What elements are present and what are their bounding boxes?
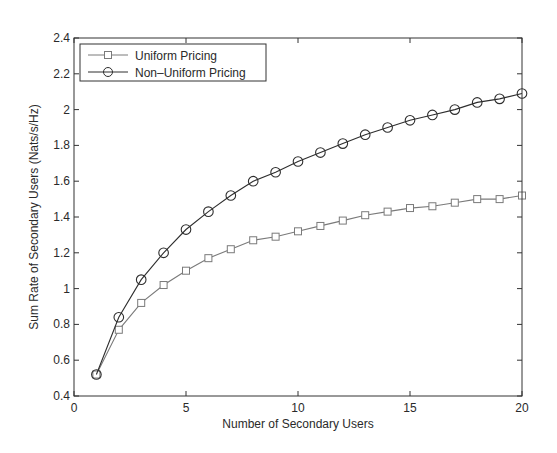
x-axis-label: Number of Secondary Users	[222, 417, 373, 431]
square-marker-icon	[160, 282, 167, 289]
square-marker-icon	[429, 203, 436, 210]
y-tick-label: 1.4	[53, 210, 70, 224]
square-marker-icon	[227, 246, 234, 253]
square-marker-icon	[105, 52, 112, 59]
square-marker-icon	[93, 371, 100, 378]
y-tick-label: 0.6	[53, 353, 70, 367]
y-tick-label: 2	[63, 103, 70, 117]
square-marker-icon	[362, 212, 369, 219]
legend: Uniform Pricing Non–Uniform Pricing	[80, 44, 266, 81]
square-marker-icon	[451, 199, 458, 206]
square-marker-icon	[384, 208, 391, 215]
x-tick-label: 0	[71, 401, 78, 415]
legend-label-uniform: Uniform Pricing	[135, 49, 217, 63]
square-marker-icon	[339, 217, 346, 224]
square-marker-icon	[250, 237, 257, 244]
x-tick-label: 10	[291, 401, 305, 415]
square-marker-icon	[295, 228, 302, 235]
y-tick-label: 1.6	[53, 174, 70, 188]
y-tick-label: 1	[63, 282, 70, 296]
y-tick-label: 2.2	[53, 67, 70, 81]
y-tick-label: 1.2	[53, 246, 70, 260]
square-marker-icon	[115, 326, 122, 333]
y-tick-label: 0.8	[53, 317, 70, 331]
x-tick-label: 15	[403, 401, 417, 415]
square-marker-icon	[205, 255, 212, 262]
square-marker-icon	[272, 233, 279, 240]
legend-label-non-uniform: Non–Uniform Pricing	[135, 66, 246, 80]
square-marker-icon	[474, 196, 481, 203]
square-marker-icon	[183, 267, 190, 274]
x-tick-label: 20	[515, 401, 529, 415]
y-tick-label: 1.8	[53, 138, 70, 152]
sum-rate-chart: 051015200.40.60.811.21.41.61.822.22.4 Nu…	[0, 0, 557, 453]
y-axis-label: Sum Rate of Secondary Users (Nats/s/Hz)	[27, 104, 41, 329]
y-tick-label: 0.4	[53, 389, 70, 403]
square-marker-icon	[407, 205, 414, 212]
square-marker-icon	[317, 222, 324, 229]
x-tick-label: 5	[183, 401, 190, 415]
square-marker-icon	[138, 299, 145, 306]
square-marker-icon	[496, 196, 503, 203]
y-tick-label: 2.4	[53, 31, 70, 45]
